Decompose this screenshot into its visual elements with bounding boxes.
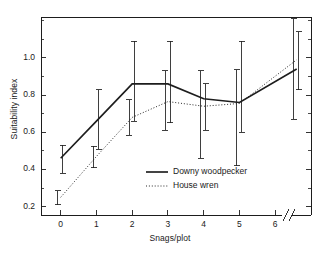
chart-canvas	[0, 0, 324, 255]
x-tick-label: 1	[89, 219, 103, 229]
suitability-index-chart: Suitability index Snags/plot 0.20.40.60.…	[0, 0, 324, 255]
series-line-house-wren	[61, 60, 297, 198]
x-tick-label: 0	[54, 219, 68, 229]
x-tick-label: 5	[232, 219, 246, 229]
x-tick-label: 4	[197, 219, 211, 229]
x-tick-label: 6	[268, 219, 282, 229]
y-tick-label: 0.4	[13, 163, 35, 173]
y-tick-label: 0.8	[13, 89, 35, 99]
x-axis-title: Snags/plot	[130, 233, 210, 243]
legend-label-1: House wren	[173, 180, 218, 190]
y-tick-label: 1.0	[13, 52, 35, 62]
axis-break-slash-1	[283, 209, 289, 221]
y-tick-label: 0.6	[13, 126, 35, 136]
series-line-downy-woodpecker	[61, 69, 297, 158]
y-tick-label: 0.2	[13, 201, 35, 211]
x-tick-label: 2	[125, 219, 139, 229]
x-tick-label: 3	[161, 219, 175, 229]
y-axis-title: Suitability index	[9, 64, 19, 154]
legend-label-0: Downy woodpecker	[173, 166, 247, 176]
